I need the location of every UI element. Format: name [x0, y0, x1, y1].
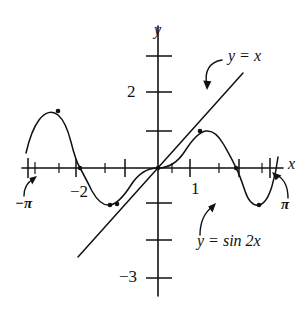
line-y-equals-x	[78, 73, 243, 257]
x-endpoint-label-minus-pi: −π	[15, 196, 32, 211]
point-intersection-right	[198, 129, 203, 134]
point-origin	[156, 166, 160, 170]
annotation-curve-label: y = sin 2x	[197, 233, 261, 249]
point-zero-right	[234, 166, 238, 170]
point-min-right	[257, 203, 262, 208]
x-tick-label-minus-2: −2	[70, 183, 88, 200]
leader-pi	[272, 172, 288, 198]
point-intersection-left	[115, 202, 120, 207]
point-zero-left	[78, 166, 82, 170]
leader-minus-pi	[24, 176, 37, 196]
y-tick-label-2: 2	[127, 83, 136, 100]
curve-y-equals-sin-2x	[26, 112, 278, 205]
leader-y-equals-x	[203, 60, 222, 90]
x-tick-label-1: 1	[191, 180, 200, 197]
x-endpoint-label-pi: π	[281, 197, 289, 212]
y-axis-label: y	[154, 22, 161, 38]
figure-graph: y x 2 −3 −2 1 −π π y = x y = sin 2x	[0, 0, 307, 316]
point-max-left	[56, 109, 61, 114]
point-min-left	[108, 203, 113, 208]
y-tick-label-minus-3: −3	[119, 268, 137, 285]
x-axis-label: x	[288, 156, 295, 172]
annotation-line-label: y = x	[228, 48, 261, 64]
leader-y-equals-sin-2x	[200, 203, 216, 235]
